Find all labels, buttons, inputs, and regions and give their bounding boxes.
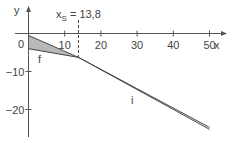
y-tick-label: −20 [6, 104, 25, 116]
y-axis-label: y [14, 4, 20, 16]
x-tick-label: 40 [167, 39, 179, 51]
x-tick-label: 10 [59, 39, 71, 51]
origin-label: 0 [18, 38, 24, 50]
x-tick-label: 20 [95, 39, 107, 51]
x-axis-label: x [214, 39, 220, 51]
annotation-value: = 13,8 [67, 8, 101, 20]
series-i-label: i [131, 94, 133, 106]
y-tick-label: −10 [6, 66, 25, 78]
x-axis-arrow [221, 31, 227, 36]
series-f-label: f [38, 53, 42, 65]
series-i-line [29, 49, 210, 130]
y-axis-arrow [26, 6, 31, 12]
chart: 1020304050−10−20 x y 0 xS = 13,8 fi [0, 0, 232, 143]
x-tick-label: 30 [131, 39, 143, 51]
